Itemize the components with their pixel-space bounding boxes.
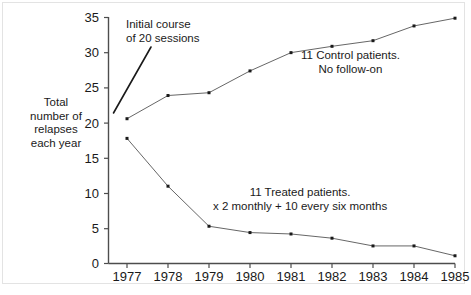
annotation-initial-course-line-1: Initial course (126, 18, 200, 32)
cut-off-caption (2, 286, 465, 295)
data-point-marker (126, 117, 129, 120)
data-point-marker (454, 254, 457, 257)
data-point-marker (372, 244, 375, 247)
y-axis-label-line-2: number of (17, 110, 95, 124)
x-tick-label: 1978 (154, 269, 183, 284)
data-point-marker (331, 237, 334, 240)
x-axis-tick-labels: 1977 1978 1979 1980 1981 1982 1983 1984 … (113, 269, 470, 284)
data-point-marker (413, 244, 416, 247)
y-axis-label-line-3: relapses (17, 123, 95, 137)
x-tick-label: 1981 (277, 269, 306, 284)
data-point-marker (249, 69, 252, 72)
initial-course-leader-line (114, 47, 152, 113)
x-tick-label: 1983 (359, 269, 388, 284)
data-point-marker (372, 39, 375, 42)
annotation-control-patients: 11 Control patients. No follow-on (301, 49, 400, 76)
data-point-marker (167, 94, 170, 97)
annotation-control-patients-line-2: No follow-on (301, 63, 400, 77)
annotation-initial-course-line-2: of 20 sessions (126, 32, 200, 46)
data-point-marker (454, 17, 457, 20)
annotation-treated-patients: 11 Treated patients. x 2 monthly + 10 ev… (213, 186, 387, 213)
y-tick-label: 5 (92, 221, 99, 236)
data-point-marker (331, 45, 334, 48)
y-tick-label: 30 (85, 45, 99, 60)
y-axis-label: Total number of relapses each year (17, 96, 95, 150)
y-tick-label: 25 (85, 80, 99, 95)
data-point-marker (126, 137, 129, 140)
x-tick-label: 1977 (113, 269, 142, 284)
y-axis-label-line-4: each year (17, 137, 95, 151)
figure-container: 35 30 25 20 15 10 5 0 1977 1978 1979 19 (0, 0, 471, 295)
data-series-layer (126, 17, 457, 258)
data-point-marker (413, 24, 416, 27)
data-point-marker (249, 231, 252, 234)
x-tick-label: 1979 (195, 269, 224, 284)
y-axis-label-line-1: Total (17, 96, 95, 110)
y-tick-label: 35 (85, 10, 99, 25)
x-tick-label: 1985 (441, 269, 470, 284)
y-tick-label: 15 (85, 151, 99, 166)
annotation-treated-patients-line-1: 11 Treated patients. (213, 186, 387, 200)
data-point-marker (290, 51, 293, 54)
data-point-marker (208, 91, 211, 94)
x-tick-label: 1982 (318, 269, 347, 284)
data-point-marker (208, 225, 211, 228)
x-tick-label: 1980 (236, 269, 265, 284)
data-point-marker (290, 232, 293, 235)
y-tick-label: 10 (85, 186, 99, 201)
annotation-control-patients-line-1: 11 Control patients. (301, 49, 400, 63)
annotation-treated-patients-line-2: x 2 monthly + 10 every six months (213, 200, 387, 214)
x-tick-label: 1984 (400, 269, 429, 284)
y-tick-label: 0 (92, 256, 99, 271)
data-point-marker (167, 185, 170, 188)
annotation-initial-course: Initial course of 20 sessions (126, 18, 200, 45)
